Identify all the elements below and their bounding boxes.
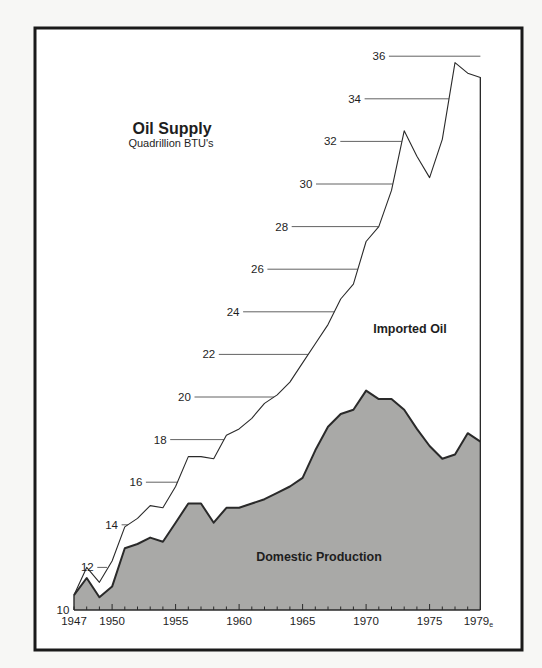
y-tick-label-20: 20	[178, 391, 191, 403]
x-tick-label-1979: 1979e	[464, 615, 494, 628]
x-tick-label-1970: 1970	[353, 615, 379, 627]
x-tick-label-1950: 1950	[99, 615, 125, 627]
y-tick-label-14: 14	[105, 519, 118, 531]
x-tick-label-1960: 1960	[226, 615, 252, 627]
x-tick-label-1975: 1975	[417, 615, 443, 627]
y-tick-label-24: 24	[227, 306, 240, 318]
x-tick-label-1965: 1965	[290, 615, 316, 627]
y-tick-label-36: 36	[373, 50, 386, 62]
x-tick-label-1955: 1955	[163, 615, 189, 627]
domestic-production-label: Domestic Production	[256, 550, 382, 564]
y-tick-label-30: 30	[300, 178, 313, 190]
chart-subtitle: Quadrillion BTU's	[128, 137, 214, 149]
y-tick-label-22: 22	[202, 348, 215, 360]
chart-title: Oil Supply	[132, 120, 211, 137]
oil-supply-chart: 1012141618202224262830323436 19471950195…	[0, 0, 542, 668]
y-tick-label-18: 18	[154, 434, 167, 446]
x-tick-label-1947: 1947	[61, 615, 87, 627]
y-tick-label-28: 28	[275, 221, 288, 233]
y-tick-label-26: 26	[251, 263, 264, 275]
y-tick-label-32: 32	[324, 135, 337, 147]
y-tick-label-34: 34	[348, 93, 361, 105]
chart-canvas: 1012141618202224262830323436 19471950195…	[0, 0, 542, 668]
y-tick-label-12: 12	[81, 561, 94, 573]
imported-oil-label: Imported Oil	[373, 322, 447, 336]
y-tick-label-16: 16	[130, 476, 143, 488]
